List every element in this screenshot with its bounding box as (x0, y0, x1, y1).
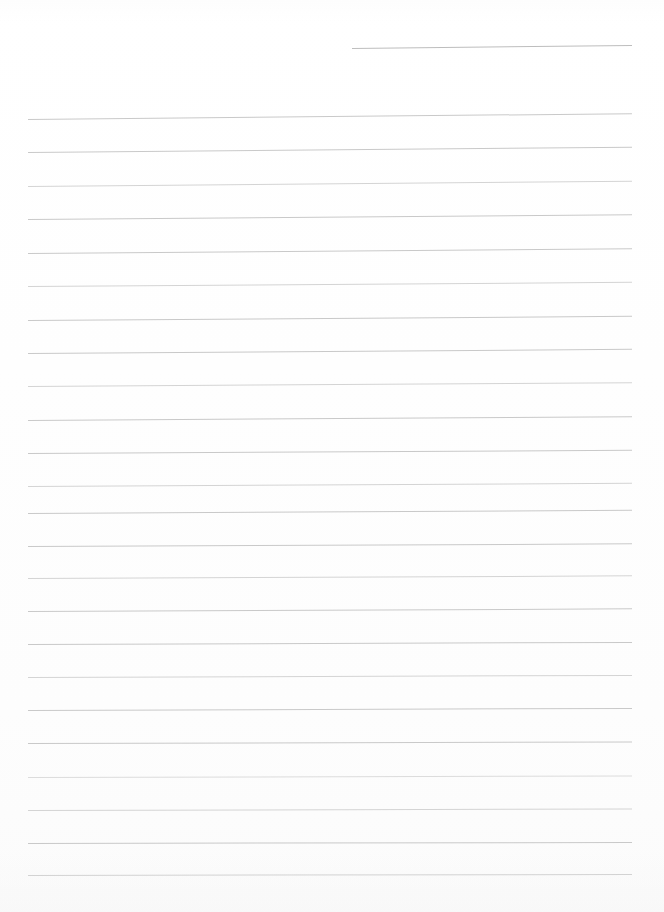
writing-area[interactable] (0, 0, 664, 912)
lined-page (0, 0, 664, 912)
